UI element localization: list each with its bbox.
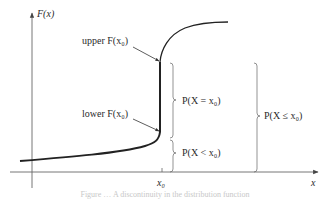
x0-tick-label: x₀ (157, 178, 165, 188)
brace-p-less (170, 140, 176, 172)
upper-f-label: upper F(x₀) (82, 36, 128, 46)
lower-f-label: lower F(x₀) (82, 109, 128, 119)
p-equal-label: P(X = x₀) (182, 96, 221, 106)
cdf-diagram (0, 0, 325, 199)
lower-pointer-arrow (133, 119, 159, 131)
figure-caption: Figure … A discontinuity in the distribu… (60, 190, 270, 199)
y-axis-label: F(x) (37, 9, 54, 19)
x-axis-label: x (311, 178, 315, 188)
p-less-label: P(X < x₀) (182, 148, 221, 158)
p-leq-label: P(X ≤ x₀) (264, 111, 302, 121)
cdf-curve-upper (160, 22, 228, 62)
brace-p-leq (254, 63, 260, 172)
brace-p-equal (170, 63, 176, 138)
upper-pointer-arrow (133, 47, 159, 61)
